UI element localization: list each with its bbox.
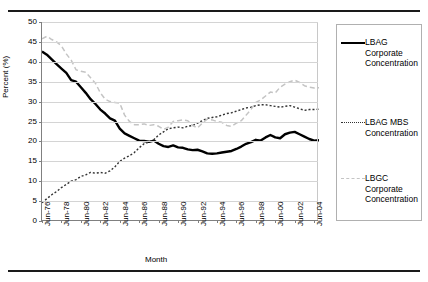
y-tick-mark [39,161,42,162]
y-tick-label: 0 [3,217,37,225]
x-tick-label: Jun-02 [297,202,305,226]
gridline [42,161,318,162]
legend-line-swatch-icon [341,174,365,184]
x-tick-label: Jun-82 [102,202,110,226]
gridline [42,42,318,43]
chart-figure: Percent (%) 50454035302520151050 Jun-76J… [0,14,428,266]
y-tick-label: 20 [3,137,37,145]
gridline [42,62,318,63]
series-line-2 [42,36,319,129]
x-tick-label: Jun-78 [63,202,71,226]
y-tick-label: 15 [3,157,37,165]
top-divider-rule [8,10,420,12]
y-tick-label: 35 [3,78,37,86]
x-tick-label: Jun-76 [44,202,52,226]
x-axis-title: Month [145,256,167,264]
plot-area [41,22,318,221]
y-tick-mark [39,22,42,23]
y-tick-mark [39,201,42,202]
y-tick-mark [39,82,42,83]
x-tick-label: Jun-88 [161,202,169,226]
legend-label: LBAG MBS Concentration [365,117,421,138]
x-tick-label: Jun-04 [316,202,324,226]
y-tick-mark [39,102,42,103]
y-tick-label: 10 [3,177,37,185]
y-tick-label: 25 [3,118,37,126]
y-tick-label: 45 [3,38,37,46]
legend-line-swatch-icon [341,118,365,128]
y-tick-mark [39,122,42,123]
gridline [42,141,318,142]
y-tick-label: 50 [3,18,37,26]
y-tick-mark [39,141,42,142]
gridline [42,102,318,103]
x-tick-label: Jun-90 [180,202,188,226]
x-tick-label: Jun-80 [83,202,91,226]
chart-legend: LBAG Corporate ConcentrationLBAG MBS Con… [336,24,422,221]
y-tick-mark [39,62,42,63]
legend-label: LBGC Corporate Concentration [365,173,421,205]
x-tick-label: Jun-96 [238,202,246,226]
x-tick-label: Jun-94 [219,202,227,226]
y-tick-label: 40 [3,58,37,66]
legend-label: LBAG Corporate Concentration [365,37,421,69]
gridline [42,82,318,83]
x-tick-label: Jun-00 [277,202,285,226]
series-line-1 [42,105,319,203]
bottom-divider-rule [8,270,420,272]
gridline [42,22,318,23]
series-line-0 [42,51,319,153]
x-tick-label: Jun-84 [122,202,130,226]
legend-entry[interactable]: LBAG Corporate Concentration [341,37,421,69]
legend-line-swatch-icon [341,38,365,48]
x-tick-label: Jun-98 [258,202,266,226]
y-tick-label: 30 [3,98,37,106]
gridline [42,181,318,182]
x-tick-label: Jun-92 [200,202,208,226]
x-tick-label: Jun-86 [141,202,149,226]
legend-entry[interactable]: LBGC Corporate Concentration [341,173,421,205]
y-tick-mark [39,42,42,43]
gridline [42,122,318,123]
y-tick-label: 5 [3,197,37,205]
y-tick-mark [39,181,42,182]
legend-entry[interactable]: LBAG MBS Concentration [341,117,421,138]
